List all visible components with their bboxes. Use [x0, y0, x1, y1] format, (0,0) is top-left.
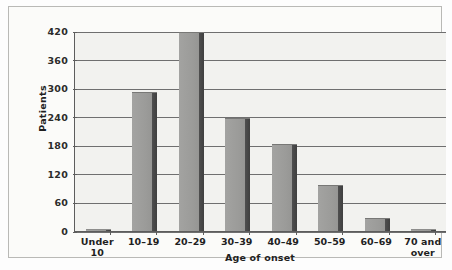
bar[interactable] — [179, 32, 204, 231]
bar[interactable] — [86, 229, 111, 232]
y-tick-label: 0 — [61, 226, 68, 237]
bar[interactable] — [318, 185, 343, 231]
y-tick-label: 240 — [48, 112, 68, 123]
y-tick-mark — [73, 146, 77, 147]
y-tick-mark — [73, 32, 77, 33]
x-tick-label: 20–29 — [167, 237, 214, 248]
bars-group — [75, 32, 446, 231]
x-tick-mark — [110, 231, 111, 235]
y-tick-label: 120 — [48, 169, 68, 180]
x-axis-title: Age of onset — [74, 252, 446, 263]
y-tick-label: 360 — [48, 55, 68, 66]
x-tick-label: 30–39 — [214, 237, 261, 248]
bar[interactable] — [365, 218, 390, 231]
x-tick-mark — [435, 231, 436, 235]
y-tick-mark — [73, 117, 77, 118]
y-tick-label: 420 — [48, 26, 68, 37]
x-tick-mark — [296, 231, 297, 235]
x-tick-label: 60–69 — [353, 237, 400, 248]
plot-area — [74, 32, 446, 232]
y-tick-label: 300 — [48, 83, 68, 94]
bar[interactable] — [225, 118, 250, 231]
bar-slot — [318, 32, 343, 231]
bar-slot — [86, 32, 111, 231]
x-tick-mark — [249, 231, 250, 235]
y-tick-mark — [73, 232, 77, 233]
y-tick-mark — [73, 60, 77, 61]
bar-slot — [272, 32, 297, 231]
bar-slot — [411, 32, 436, 231]
x-tick-label: 40–49 — [260, 237, 307, 248]
bar-slot — [132, 32, 157, 231]
gridline — [75, 232, 446, 233]
bar-slot — [225, 32, 250, 231]
y-tick-label: 60 — [54, 197, 68, 208]
bar[interactable] — [132, 92, 157, 231]
bar[interactable] — [411, 229, 436, 232]
x-tick-mark — [342, 231, 343, 235]
y-axis-tick-labels: 060120180240300360420 — [35, 32, 68, 232]
y-tick-mark — [73, 203, 77, 204]
x-tick-label: 10–19 — [121, 237, 168, 248]
x-tick-mark — [203, 231, 204, 235]
chart-screenshot: Patients 060120180240300360420 Under 101… — [0, 0, 452, 270]
x-tick-mark — [156, 231, 157, 235]
y-tick-mark — [73, 174, 77, 175]
bar[interactable] — [272, 144, 297, 231]
chart-frame: Patients 060120180240300360420 Under 101… — [8, 6, 442, 258]
y-tick-mark — [73, 89, 77, 90]
x-tick-label: 50–59 — [307, 237, 354, 248]
bar-slot — [179, 32, 204, 231]
y-tick-label: 180 — [48, 140, 68, 151]
bar-slot — [365, 32, 390, 231]
x-tick-mark — [389, 231, 390, 235]
